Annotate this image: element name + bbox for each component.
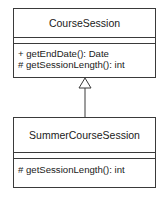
operation: # getSessionLength(): int — [18, 164, 155, 175]
hollow-triangle-icon — [79, 78, 91, 88]
operations-compartment: # getSessionLength(): int — [14, 159, 155, 175]
class-name: SummerCourseSession — [14, 118, 155, 152]
class-summer-course-session: SummerCourseSession # getSessionLength()… — [13, 117, 156, 188]
